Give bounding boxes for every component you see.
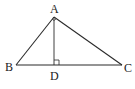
label-c: C	[124, 61, 132, 75]
triangle-diagram: A B C D	[0, 0, 135, 89]
segment-ab	[16, 17, 54, 65]
label-d: D	[50, 69, 59, 83]
right-angle-mark	[54, 60, 59, 65]
label-a: A	[50, 2, 59, 16]
label-b: B	[5, 60, 13, 74]
segment-ac	[54, 17, 122, 65]
